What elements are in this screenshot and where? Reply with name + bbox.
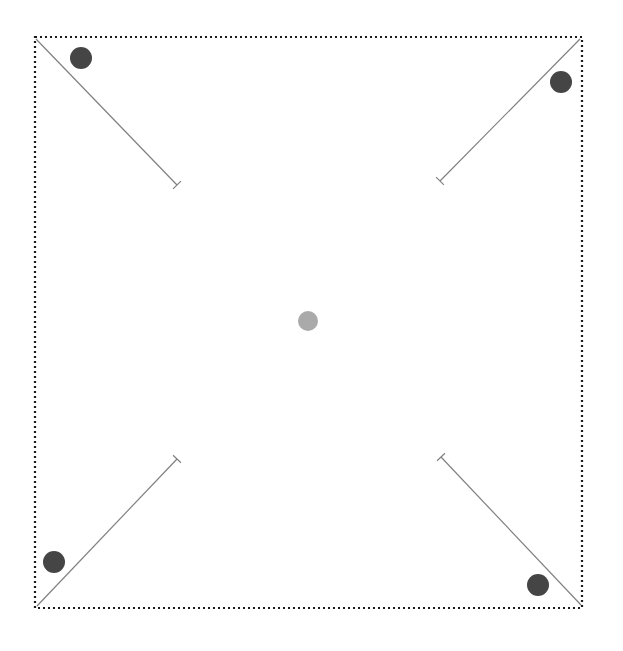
scene-svg — [0, 0, 623, 651]
diagram-canvas — [0, 0, 623, 651]
node-bottom-left — [43, 551, 65, 573]
center-node — [298, 311, 318, 331]
node-top-right — [550, 71, 572, 93]
node-bottom-right — [527, 574, 549, 596]
node-top-left — [70, 47, 92, 69]
